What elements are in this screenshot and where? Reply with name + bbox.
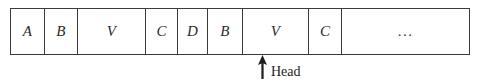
tape-cell-label: C xyxy=(156,24,166,39)
tape-cell-overflow[interactable]: ... xyxy=(342,9,469,54)
tape-cell[interactable]: C xyxy=(309,9,342,54)
tape-cell-label: V xyxy=(107,24,116,39)
tape-cell[interactable]: A xyxy=(11,9,45,54)
tape-cell-head[interactable]: V xyxy=(243,9,309,54)
head-pointer: Head xyxy=(256,55,301,82)
tape-cell[interactable]: C xyxy=(146,9,178,54)
tape-cell-label: B xyxy=(220,24,229,39)
tape-cell[interactable]: D xyxy=(178,9,208,54)
arrow-up-icon xyxy=(256,55,269,79)
head-pointer-label: Head xyxy=(271,65,301,79)
tape-cell-label: B xyxy=(56,24,65,39)
tape-track: A B V C D B V C ... xyxy=(10,8,470,55)
tape-cell-label: A xyxy=(23,24,32,39)
diagram-canvas: A B V C D B V C ... Head xyxy=(0,0,482,82)
tape-cell-label: C xyxy=(320,24,330,39)
tape-cell-label: D xyxy=(187,24,198,39)
tape-cell[interactable]: B xyxy=(208,9,243,54)
tape-cell[interactable]: V xyxy=(78,9,146,54)
tape-cell-label: V xyxy=(271,24,280,39)
tape-cell[interactable]: B xyxy=(45,9,78,54)
tape-cell-label: ... xyxy=(398,24,414,39)
